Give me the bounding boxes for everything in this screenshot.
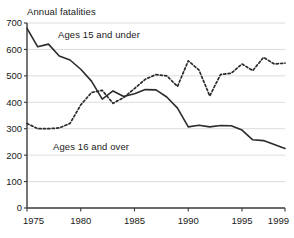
y-axis-tick-label: 600 [6,44,22,55]
gridlines-group [27,23,285,182]
y-axis-tick-label: 300 [6,123,22,134]
x-axis-tick-label: 1990 [178,215,199,226]
y-axis-tick-label: 200 [6,150,22,161]
y-axis-tick-label: 700 [6,17,22,28]
y-axis-ticks-group: 0100200300400500600700 [6,17,27,213]
y-axis-tick-label: 500 [6,70,22,81]
y-axis-tick-label: 100 [6,176,22,187]
series-label-ages-15-and-under: Ages 15 and under [58,29,140,40]
y-axis-tick-label: 400 [6,97,22,108]
series-line-ages-15-and-under [27,28,285,148]
series-label-ages-16-and-over: Ages 16 and over [53,141,129,152]
x-axis-tick-label: 1985 [124,215,145,226]
x-axis-ticks-group: 197519801985199019951999 [23,208,289,226]
x-axis-tick-label: 1995 [231,215,252,226]
x-axis-tick-label: 1980 [70,215,91,226]
x-axis-tick-label: 1999 [268,215,289,226]
x-axis-tick-label: 1975 [23,215,44,226]
y-axis-tick-label: 0 [17,202,22,213]
fatalities-line-chart: Annual fatalities 0100200300400500600700… [0,0,294,238]
chart-plot-area: 0100200300400500600700 19751980198519901… [0,0,294,238]
series-line-ages-16-and-over [27,57,285,128]
